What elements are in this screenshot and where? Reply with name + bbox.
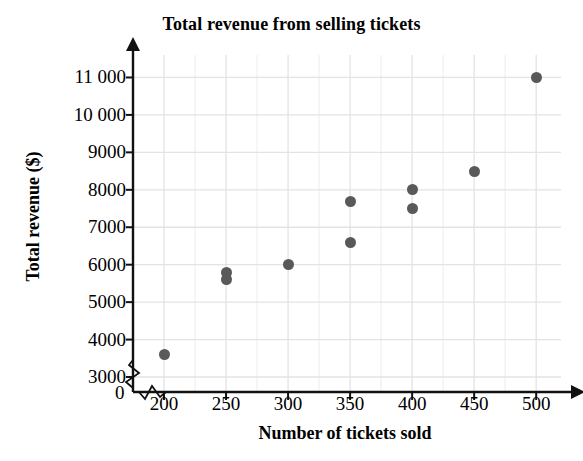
scatter-plot-figure: Total revenue from selling tickets 30004… <box>0 0 583 461</box>
data-point <box>221 267 232 278</box>
x-axis-tick-label: 250 <box>212 393 241 415</box>
y-axis-tick-label: 5000 <box>88 291 126 313</box>
x-axis-tick-label: 200 <box>150 393 179 415</box>
x-axis-tick-label: 500 <box>522 393 551 415</box>
y-axis-tick-label: 7000 <box>88 216 126 238</box>
y-axis-title: Total revenue ($) <box>23 92 44 342</box>
data-point <box>345 237 356 248</box>
x-axis-tick-label: 300 <box>274 393 303 415</box>
y-axis-tick-label: 10 000 <box>74 104 126 126</box>
data-points-layer <box>133 55 561 392</box>
data-point <box>407 203 418 214</box>
data-point <box>531 72 542 83</box>
x-axis-tick-label: 350 <box>336 393 365 415</box>
y-axis-tick-label: 6000 <box>88 254 126 276</box>
y-axis-tick-label: 8000 <box>88 179 126 201</box>
x-axis-title: Number of tickets sold <box>130 423 560 444</box>
origin-label: 0 <box>115 382 125 404</box>
data-point <box>469 166 480 177</box>
y-axis-tick-label: 4000 <box>88 329 126 351</box>
data-point <box>345 196 356 207</box>
x-axis-tick-label: 450 <box>460 393 489 415</box>
y-axis-tick-label: 11 000 <box>74 66 126 88</box>
x-axis-tick-label: 400 <box>398 393 427 415</box>
plot-area <box>133 55 561 392</box>
data-point <box>407 184 418 195</box>
y-axis-tick-label: 9000 <box>88 141 126 163</box>
data-point <box>283 259 294 270</box>
data-point <box>159 349 170 360</box>
